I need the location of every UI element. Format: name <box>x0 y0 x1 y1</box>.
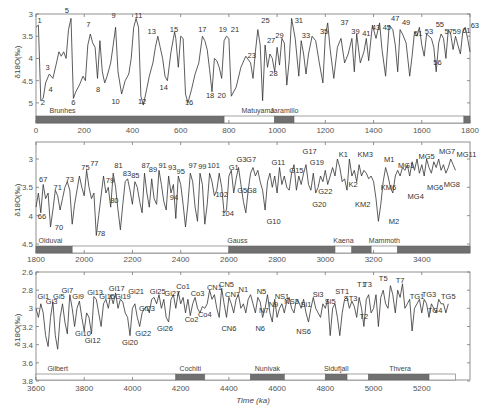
isotope-stage-label: TG3 <box>422 290 437 299</box>
isotope-stage-label: 67 <box>39 175 47 184</box>
polarity-chron <box>325 374 347 380</box>
isotope-stage-label: MG11 <box>456 150 476 159</box>
panel-gauss: OlduvaiGaussKaenaMammoth33.544.518002000… <box>13 142 476 264</box>
isotope-stage-label: 56 <box>433 58 441 67</box>
isotope-stage-label: N1 <box>239 285 249 294</box>
isotope-stage-label: 73 <box>66 175 74 184</box>
polarity-chron <box>352 246 371 253</box>
y-tick-label: 4 <box>29 54 34 63</box>
isotope-stage-label: 15 <box>170 25 178 34</box>
chron-label: Cochiti <box>180 365 202 372</box>
isotope-stage-label: 99 <box>198 162 206 171</box>
y-axis-label: δ18O(‰) <box>13 183 22 216</box>
x-tick-label: 600 <box>174 126 188 135</box>
chron-label: Nunivak <box>255 365 281 372</box>
x-tick-label: 1200 <box>316 126 334 135</box>
isotope-stage-label: TG5 <box>441 292 456 301</box>
isotope-stage-label: Co1 <box>176 282 190 291</box>
y-tick-label: 3 <box>29 155 34 164</box>
chron-label: Jaramillo <box>270 107 298 114</box>
polarity-chron <box>275 116 294 123</box>
isotope-stage-label: Gi26 <box>157 324 173 333</box>
x-tick-label: 1800 <box>461 126 479 135</box>
x-tick-label: 400 <box>126 126 140 135</box>
isotope-stage-label: N5 <box>257 287 267 296</box>
isotope-stage-label: 83 <box>123 169 131 178</box>
y-tick-label: 3.2 <box>22 323 34 332</box>
isotope-stage-label: MG5 <box>418 152 434 161</box>
x-tick-label: 1000 <box>268 126 286 135</box>
isotope-stage-label: Gi12 <box>85 336 101 345</box>
y-tick-label: 4.5 <box>22 240 34 249</box>
isotope-stage-label: Co2 <box>185 315 199 324</box>
y-tick-label: 2.8 <box>22 286 34 295</box>
isotope-stage-label: 41 <box>362 29 370 38</box>
y-tick-label: 4 <box>29 212 34 221</box>
isotope-stage-label: 80 <box>110 196 118 205</box>
isotope-stage-label: 25 <box>261 16 269 25</box>
isotope-stage-label: NS3 <box>284 297 299 306</box>
isotope-stage-label: Si1 <box>301 300 312 309</box>
isotope-stage-label: M2 <box>389 217 399 226</box>
isotope-stage-label: G10 <box>266 217 280 226</box>
chron-label: Gauss <box>227 237 248 244</box>
polarity-chron <box>369 374 429 380</box>
isotope-stage-label: 39 <box>351 27 359 36</box>
isotope-stage-label: Co4 <box>198 310 212 319</box>
isotope-stage-label: MG1 <box>398 161 414 170</box>
polarity-chron <box>176 374 205 380</box>
x-tick-label: 4800 <box>316 384 334 393</box>
x-tick-label: 2200 <box>124 255 142 264</box>
isotope-stage-label: 102 <box>215 190 228 199</box>
isotope-stage-label: K1 <box>339 150 348 159</box>
figure: BrunhesMatuyamaJaramillo33.544.550200400… <box>0 0 483 411</box>
isotope-stage-label: Gi25 <box>150 287 166 296</box>
isotope-stage-label: Co3 <box>191 289 205 298</box>
isotope-stage-label: 59 <box>453 27 461 36</box>
x-tick-label: 5000 <box>365 384 383 393</box>
isotope-stage-label: CN6 <box>221 324 236 333</box>
isotope-stage-label: MG4 <box>408 192 424 201</box>
x-tick-label: 200 <box>78 126 92 135</box>
isotope-stage-label: 95 <box>176 167 184 176</box>
isotope-stage-label: 8 <box>96 85 100 94</box>
isotope-stage-label: 55 <box>436 20 444 29</box>
polarity-chron <box>429 374 456 380</box>
isotope-stage-label: 78 <box>97 229 105 238</box>
isotope-stage-label: 35 <box>320 27 328 36</box>
isotope-stage-label: 85 <box>131 171 139 180</box>
x-tick-label: 3400 <box>413 255 431 264</box>
isotope-stage-label: 9 <box>112 11 116 20</box>
x-tick-label: 1800 <box>27 255 45 264</box>
y-tick-label: 5 <box>29 99 34 108</box>
y-tick-label: 2.6 <box>22 268 34 277</box>
isotope-stage-label: G5 <box>237 186 247 195</box>
x-tick-label: 2800 <box>268 255 286 264</box>
isotope-stage-label: 89 <box>149 165 157 174</box>
isotope-stage-label: 14 <box>160 83 168 92</box>
x-tick-label: 4400 <box>220 384 238 393</box>
isotope-stage-label: 27 <box>267 36 275 45</box>
isotope-stage-label: MG8 <box>444 180 460 189</box>
polarity-chron <box>251 374 285 380</box>
isotope-stage-label: 2 <box>41 98 45 107</box>
isotope-stage-label: 47 <box>391 14 399 23</box>
x-tick-label: 3000 <box>316 255 334 264</box>
x-tick-label: 3600 <box>27 384 45 393</box>
isotope-stage-label: TG4 <box>428 306 443 315</box>
isotope-stage-label: 18 <box>206 91 214 100</box>
isotope-stage-label: 51 <box>414 29 422 38</box>
isotope-stage-label: 19 <box>219 25 227 34</box>
isotope-stage-label: 66 <box>38 212 46 221</box>
isotope-stage-label: N7 <box>259 306 269 315</box>
isotope-stage-label: M1 <box>384 155 394 164</box>
polarity-chron <box>284 374 325 380</box>
isotope-stage-label: 11 <box>135 11 143 20</box>
isotope-stage-label: G17 <box>303 147 317 156</box>
panel-gilbert: GilbertCochitiNunivakSidufjallThvera2.62… <box>13 268 470 393</box>
isotope-stage-label: G15 <box>289 166 303 175</box>
isotope-stage-label: 43 <box>372 23 380 32</box>
isotope-stage-label: 5 <box>65 6 69 15</box>
isotope-stage-label: 29 <box>275 31 283 40</box>
isotope-stage-label: Gi20 <box>122 338 138 347</box>
